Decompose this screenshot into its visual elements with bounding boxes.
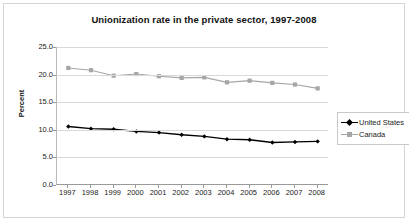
data-point-marker xyxy=(247,138,251,142)
gridline xyxy=(57,102,328,103)
data-point-marker xyxy=(66,124,70,128)
chart-title: Unionization rate in the private sector,… xyxy=(4,14,404,25)
x-axis-tick-mark xyxy=(67,185,68,188)
x-axis-tick-mark xyxy=(203,185,204,188)
y-axis-tick-label: 0.0 xyxy=(23,180,53,189)
data-point-marker xyxy=(248,79,252,83)
data-point-marker xyxy=(202,75,206,79)
x-axis-tick-mark xyxy=(249,185,250,188)
data-point-marker xyxy=(316,86,320,90)
chart-frame: Unionization rate in the private sector,… xyxy=(3,3,405,218)
x-axis-tick-mark xyxy=(113,185,114,188)
gridline xyxy=(57,47,328,48)
data-point-marker xyxy=(202,134,206,138)
x-axis-tick-mark xyxy=(158,185,159,188)
data-point-marker xyxy=(315,139,319,143)
y-axis-tick-label: 25.0 xyxy=(23,42,53,51)
x-axis-tick-mark xyxy=(317,185,318,188)
y-axis-tick-mark xyxy=(53,75,56,76)
x-axis-tick-labels: 1997199819992000200120022003200420052006… xyxy=(56,188,328,202)
y-axis-tick-label: 10.0 xyxy=(23,125,53,134)
chart-screenshot: Unionization rate in the private sector,… xyxy=(0,0,409,222)
x-axis-tick-mark xyxy=(294,185,295,188)
data-point-marker xyxy=(270,81,274,85)
data-point-marker xyxy=(66,66,70,70)
data-point-marker xyxy=(293,140,297,144)
y-axis-tick-mark xyxy=(53,47,56,48)
x-axis-tick-label: 2008 xyxy=(302,188,332,197)
data-point-marker xyxy=(180,76,184,80)
x-axis-tick-mark xyxy=(135,185,136,188)
legend-label-canada: Canada xyxy=(358,130,385,139)
gridline xyxy=(57,75,328,76)
diamond-marker-icon xyxy=(346,118,353,125)
plot-area xyxy=(56,47,328,185)
data-point-marker xyxy=(270,140,274,144)
y-axis-tick-label: 15.0 xyxy=(23,97,53,106)
gridline xyxy=(57,130,328,131)
y-axis-tick-labels: 0.05.010.015.020.025.0 xyxy=(20,47,53,185)
y-axis-tick-mark xyxy=(53,102,56,103)
y-axis-tick-mark xyxy=(53,185,56,186)
data-point-marker xyxy=(225,137,229,141)
x-axis-tick-mark xyxy=(181,185,182,188)
data-point-marker xyxy=(157,130,161,134)
chart-legend: United States Canada xyxy=(337,112,409,145)
y-axis-tick-label: 5.0 xyxy=(23,152,53,161)
x-axis-tick-mark xyxy=(271,185,272,188)
legend-label-united-states: United States xyxy=(358,118,404,127)
series-line xyxy=(68,68,317,88)
data-point-marker xyxy=(179,133,183,137)
data-point-marker xyxy=(89,68,93,72)
data-point-marker xyxy=(225,80,229,84)
x-axis-tick-mark xyxy=(90,185,91,188)
y-axis-tick-label: 20.0 xyxy=(23,70,53,79)
legend-swatch-united-states xyxy=(341,118,358,127)
legend-swatch-canada xyxy=(341,130,358,139)
legend-item-united-states[interactable]: United States xyxy=(340,116,407,128)
y-axis-tick-mark xyxy=(53,130,56,131)
x-axis-tick-mark xyxy=(226,185,227,188)
gridline xyxy=(57,157,328,158)
square-marker-icon xyxy=(347,132,352,137)
data-point-marker xyxy=(293,82,297,86)
plot-series-svg xyxy=(57,47,329,185)
legend-item-canada[interactable]: Canada xyxy=(340,128,407,140)
y-axis-tick-mark xyxy=(53,157,56,158)
